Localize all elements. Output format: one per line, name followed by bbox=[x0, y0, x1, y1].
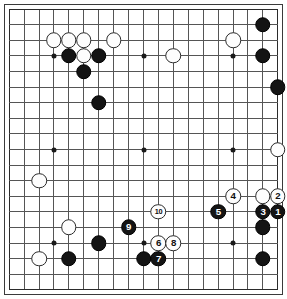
black-stone[interactable] bbox=[270, 79, 286, 95]
white-stone[interactable] bbox=[166, 48, 182, 64]
grid-line-horizontal bbox=[9, 133, 278, 134]
white-stone[interactable] bbox=[76, 48, 92, 64]
hoshi-point bbox=[51, 53, 56, 58]
move-stone-3[interactable]: 3 bbox=[255, 204, 271, 220]
move-number-label: 6 bbox=[156, 238, 161, 248]
move-number-label: 7 bbox=[156, 254, 161, 264]
black-stone[interactable] bbox=[91, 48, 107, 64]
move-stone-10[interactable]: 10 bbox=[151, 204, 167, 220]
black-stone[interactable] bbox=[255, 220, 271, 236]
white-stone[interactable] bbox=[61, 220, 77, 236]
move-stone-5[interactable]: 5 bbox=[210, 204, 226, 220]
black-stone[interactable] bbox=[91, 95, 107, 111]
grid-line-horizontal bbox=[9, 227, 278, 228]
white-stone[interactable] bbox=[76, 33, 92, 49]
move-number-label: 3 bbox=[260, 207, 265, 217]
grid-line-horizontal bbox=[9, 87, 278, 88]
black-stone[interactable] bbox=[61, 48, 77, 64]
black-stone[interactable] bbox=[91, 235, 107, 251]
hoshi-point bbox=[141, 241, 146, 246]
black-stone[interactable] bbox=[255, 48, 271, 64]
black-stone[interactable] bbox=[61, 251, 77, 267]
move-stone-1[interactable]: 1 bbox=[270, 204, 286, 220]
move-number-label: 8 bbox=[171, 238, 176, 248]
move-number-label: 1 bbox=[275, 207, 280, 217]
grid-line-horizontal bbox=[9, 180, 278, 181]
white-stone[interactable] bbox=[31, 173, 47, 189]
hoshi-point bbox=[231, 53, 236, 58]
move-number-label: 10 bbox=[155, 208, 162, 215]
white-stone[interactable] bbox=[255, 189, 271, 205]
grid-line-horizontal bbox=[9, 24, 278, 25]
grid-line-horizontal bbox=[9, 289, 278, 290]
black-stone[interactable] bbox=[255, 251, 271, 267]
grid-line-horizontal bbox=[9, 211, 278, 212]
grid-line-horizontal bbox=[9, 102, 278, 103]
white-stone[interactable] bbox=[225, 33, 241, 49]
grid-line-horizontal bbox=[9, 9, 278, 10]
black-stone[interactable] bbox=[76, 64, 92, 80]
move-number-label: 4 bbox=[231, 191, 236, 201]
white-stone[interactable] bbox=[61, 33, 77, 49]
black-stone[interactable] bbox=[255, 17, 271, 33]
white-stone[interactable] bbox=[106, 33, 122, 49]
grid-line-horizontal bbox=[9, 118, 278, 119]
hoshi-point bbox=[141, 147, 146, 152]
go-diagram-screen: 21345678910 bbox=[0, 0, 287, 299]
hoshi-point bbox=[51, 241, 56, 246]
black-stone[interactable] bbox=[136, 251, 152, 267]
hoshi-point bbox=[141, 53, 146, 58]
move-stone-4[interactable]: 4 bbox=[225, 189, 241, 205]
move-number-label: 2 bbox=[275, 191, 280, 201]
move-stone-8[interactable]: 8 bbox=[166, 235, 182, 251]
move-stone-2[interactable]: 2 bbox=[270, 189, 286, 205]
move-number-label: 9 bbox=[126, 223, 131, 233]
grid-line-horizontal bbox=[9, 274, 278, 275]
move-stone-6[interactable]: 6 bbox=[151, 235, 167, 251]
hoshi-point bbox=[231, 147, 236, 152]
hoshi-point bbox=[51, 147, 56, 152]
grid-line-horizontal bbox=[9, 165, 278, 166]
white-stone[interactable] bbox=[270, 142, 286, 158]
white-stone[interactable] bbox=[31, 251, 47, 267]
move-stone-7[interactable]: 7 bbox=[151, 251, 167, 267]
white-stone[interactable] bbox=[46, 33, 62, 49]
grid-line-horizontal bbox=[9, 71, 278, 72]
move-number-label: 5 bbox=[216, 207, 221, 217]
hoshi-point bbox=[231, 241, 236, 246]
go-board[interactable]: 21345678910 bbox=[4, 4, 283, 295]
move-stone-9[interactable]: 9 bbox=[121, 220, 137, 236]
